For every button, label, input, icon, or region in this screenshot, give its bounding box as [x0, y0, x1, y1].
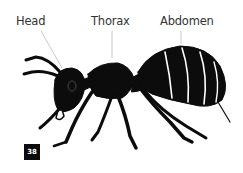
label-head: Head — [16, 16, 45, 28]
label-abdomen: Abdomen — [160, 16, 214, 28]
ant-body — [24, 46, 230, 148]
page-number-badge: 38 — [24, 144, 40, 160]
label-thorax: Thorax — [91, 16, 130, 28]
ant-eye — [68, 81, 76, 91]
